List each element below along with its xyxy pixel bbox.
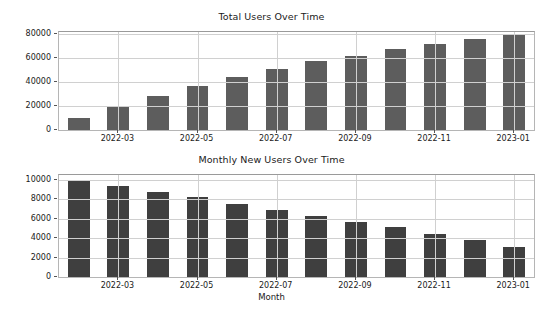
x-tick-label: 2022-09 [338, 134, 371, 143]
x-gridline [435, 32, 436, 130]
x-tick-mark [434, 130, 435, 133]
y-tick-mark [54, 179, 57, 180]
x-tick-mark [434, 277, 435, 280]
y-tick-mark [54, 198, 57, 199]
x-gridline [514, 175, 515, 277]
x-axis-label-month: Month [0, 292, 543, 302]
y-tick-label: 6000 [0, 213, 51, 222]
x-gridline [356, 175, 357, 277]
y-tick-mark [54, 81, 57, 82]
x-gridline [198, 32, 199, 130]
y-tick-mark [54, 33, 57, 34]
x-tick-label: 2023-01 [496, 281, 529, 290]
bar [385, 49, 407, 130]
y-gridline [59, 219, 534, 220]
x-gridline [277, 175, 278, 277]
y-tick-mark [54, 105, 57, 106]
y-tick-mark [54, 276, 57, 277]
x-gridline [118, 32, 119, 130]
x-tick-mark [513, 130, 514, 133]
y-tick-label: 0 [0, 272, 51, 281]
bar-series-total-users [59, 32, 534, 130]
x-tick-mark [355, 277, 356, 280]
y-tick-mark [54, 257, 57, 258]
chart-title-total-users: Total Users Over Time [0, 11, 543, 22]
y-gridline [59, 58, 534, 59]
x-gridline [277, 32, 278, 130]
y-tick-label: 8000 [0, 194, 51, 203]
bar [147, 192, 169, 277]
bar [305, 216, 327, 277]
x-gridline [356, 32, 357, 130]
x-tick-label: 2022-05 [180, 134, 213, 143]
y-gridline [59, 34, 534, 35]
y-tick-mark [54, 57, 57, 58]
bar [464, 39, 486, 130]
y-tick-label: 4000 [0, 233, 51, 242]
bar [68, 180, 90, 277]
x-tick-label: 2022-05 [180, 281, 213, 290]
bar [385, 227, 407, 277]
x-tick-mark [276, 130, 277, 133]
x-gridline [514, 32, 515, 130]
x-tick-label: 2022-07 [259, 134, 292, 143]
x-tick-mark [276, 277, 277, 280]
x-tick-mark [513, 277, 514, 280]
x-tick-label: 2022-07 [259, 281, 292, 290]
x-gridline [198, 175, 199, 277]
y-tick-mark [54, 129, 57, 130]
x-tick-mark [355, 130, 356, 133]
y-tick-label: 10000 [0, 174, 51, 183]
plot-area-monthly-new-users [58, 174, 535, 278]
x-tick-mark [197, 277, 198, 280]
bar [305, 61, 327, 130]
chart-title-monthly-new-users: Monthly New Users Over Time [0, 154, 543, 165]
y-tick-label: 20000 [0, 101, 51, 110]
bar-series-monthly-new-users [59, 175, 534, 277]
y-gridline [59, 82, 534, 83]
x-tick-label: 2022-03 [101, 281, 134, 290]
x-gridline [435, 175, 436, 277]
y-tick-label: 40000 [0, 77, 51, 86]
x-gridline [118, 175, 119, 277]
y-gridline [59, 180, 534, 181]
y-gridline [59, 238, 534, 239]
y-tick-label: 2000 [0, 252, 51, 261]
y-tick-label: 60000 [0, 53, 51, 62]
x-tick-label: 2022-11 [417, 134, 450, 143]
y-gridline [59, 258, 534, 259]
y-tick-label: 80000 [0, 29, 51, 38]
plot-area-total-users [58, 31, 535, 131]
x-tick-label: 2022-03 [101, 134, 134, 143]
y-tick-mark [54, 218, 57, 219]
y-gridline [59, 106, 534, 107]
x-tick-mark [117, 277, 118, 280]
bar [226, 77, 248, 130]
x-tick-label: 2022-11 [417, 281, 450, 290]
x-tick-label: 2022-09 [338, 281, 371, 290]
y-gridline [59, 199, 534, 200]
bar [147, 96, 169, 130]
matplotlib-figure: Total Users Over Time 020000400006000080… [0, 0, 543, 312]
y-tick-mark [54, 237, 57, 238]
bar [226, 204, 248, 277]
x-tick-mark [197, 130, 198, 133]
y-tick-label: 0 [0, 125, 51, 134]
bar [68, 118, 90, 130]
x-tick-mark [117, 130, 118, 133]
x-tick-label: 2023-01 [496, 134, 529, 143]
